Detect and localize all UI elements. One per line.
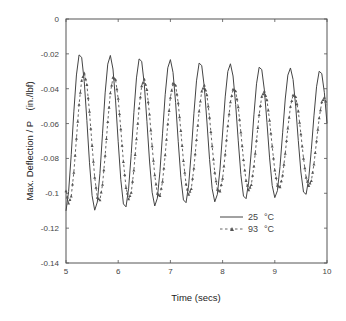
triangle-marker-icon [85, 83, 88, 86]
triangle-marker-icon [125, 186, 128, 189]
triangle-marker-icon [182, 159, 185, 162]
triangle-marker-icon [119, 128, 122, 131]
triangle-marker-icon [178, 115, 181, 118]
triangle-marker-icon [263, 90, 266, 93]
triangle-marker-icon [310, 179, 313, 182]
triangle-marker-icon [121, 144, 124, 147]
triangle-marker-icon [109, 91, 112, 94]
triangle-marker-icon [118, 112, 121, 115]
triangle-marker-icon [212, 158, 215, 161]
triangle-marker-icon [297, 110, 300, 113]
triangle-marker-icon [68, 198, 71, 201]
triangle-marker-icon [128, 194, 131, 197]
triangle-marker-icon [138, 106, 141, 109]
x-tick-label: 10 [323, 267, 332, 276]
triangle-marker-icon [185, 183, 188, 186]
triangle-marker-icon [192, 167, 195, 170]
triangle-marker-icon [168, 109, 171, 112]
triangle-marker-icon [211, 144, 214, 147]
triangle-marker-icon [122, 160, 125, 163]
triangle-marker-icon [254, 152, 257, 155]
triangle-marker-icon [271, 145, 274, 148]
triangle-marker-icon [191, 177, 194, 180]
triangle-marker-icon [181, 144, 184, 147]
triangle-marker-icon [199, 100, 202, 103]
triangle-marker-icon [179, 129, 182, 132]
triangle-marker-icon [286, 127, 289, 130]
triangle-marker-icon [259, 104, 262, 107]
series-layer [65, 55, 328, 211]
triangle-marker-icon [76, 120, 79, 123]
triangle-marker-icon [213, 171, 216, 174]
triangle-marker-icon [258, 113, 261, 116]
triangle-marker-icon [140, 84, 143, 87]
triangle-marker-icon [152, 159, 155, 162]
triangle-marker-icon [323, 96, 326, 99]
x-tick-label: 6 [116, 267, 121, 276]
triangle-marker-icon [318, 117, 321, 120]
triangle-marker-icon [238, 118, 241, 121]
triangle-marker-icon [225, 139, 228, 142]
x-tick-label: 7 [168, 267, 173, 276]
triangle-marker-icon [155, 183, 158, 186]
x-axis-title: Time (secs) [171, 292, 220, 303]
triangle-marker-icon [175, 93, 178, 96]
triangle-marker-icon [298, 121, 301, 124]
triangle-marker-icon [280, 180, 283, 183]
triangle-marker-icon [302, 157, 305, 160]
triangle-marker-icon [311, 171, 314, 174]
y-tick-label: -0.14 [41, 259, 60, 268]
triangle-marker-icon [195, 138, 198, 141]
triangle-marker-icon [177, 101, 180, 104]
triangle-marker-icon [235, 97, 238, 100]
triangle-marker-icon [153, 174, 156, 177]
triangle-marker-icon [301, 145, 304, 148]
triangle-marker-icon [285, 139, 288, 142]
triangle-marker-icon [92, 160, 95, 163]
triangle-marker-icon [272, 157, 275, 160]
triangle-marker-icon [131, 180, 134, 183]
triangle-marker-icon [132, 169, 135, 172]
triangle-marker-icon [269, 132, 272, 135]
triangle-marker-icon [207, 105, 210, 108]
triangle-marker-icon [289, 105, 292, 108]
triangle-marker-icon [147, 100, 150, 103]
triangle-marker-icon [221, 177, 224, 180]
triangle-marker-icon [222, 165, 225, 168]
x-axis-ticks: 5678910 [64, 19, 332, 276]
legend: 25 °C 93 °C [220, 212, 275, 234]
triangle-marker-icon [319, 109, 322, 112]
triangle-marker-icon [282, 163, 285, 166]
triangle-marker-icon [305, 176, 308, 179]
x-tick-label: 8 [220, 267, 225, 276]
triangle-marker-icon [166, 122, 169, 125]
triangle-marker-icon [239, 131, 242, 134]
triangle-marker-icon [228, 112, 231, 115]
y-tick-label: -0.04 [41, 85, 60, 94]
triangle-marker-icon [245, 179, 248, 182]
triangle-marker-icon [161, 180, 164, 183]
triangle-marker-icon [87, 97, 90, 100]
triangle-marker-icon [281, 174, 284, 177]
triangle-marker-icon [299, 132, 302, 135]
triangle-marker-icon [165, 138, 168, 141]
legend-label: 93 [248, 224, 258, 234]
triangle-marker-icon [230, 94, 233, 97]
triangle-marker-icon [139, 95, 142, 98]
y-tick-label: -0.02 [41, 50, 60, 59]
triangle-marker-icon [148, 113, 151, 116]
y-tick-label: -0.06 [41, 120, 60, 129]
triangle-marker-icon [95, 186, 98, 189]
triangle-marker-icon [241, 144, 244, 147]
triangle-marker-icon [151, 144, 154, 147]
triangle-marker-icon [100, 191, 103, 194]
series-25c-line [66, 55, 327, 211]
triangle-marker-icon [198, 110, 201, 113]
triangle-marker-icon [224, 153, 227, 156]
triangle-marker-icon [84, 77, 87, 80]
triangle-marker-icon [102, 169, 105, 172]
triangle-marker-icon [93, 176, 96, 179]
triangle-marker-icon [74, 154, 77, 157]
triangle-marker-icon [70, 195, 73, 198]
triangle-marker-icon [250, 183, 253, 186]
